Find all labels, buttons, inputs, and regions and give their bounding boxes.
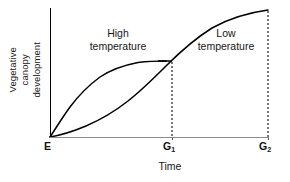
annotation-high-temperature-line1: High (72, 27, 164, 40)
x-tick-label-e: E (44, 140, 51, 152)
x-tick-label-g1: G1 (163, 140, 175, 152)
x-tick-label-g2: G2 (259, 140, 271, 152)
annotation-low-temperature-line1: Low (180, 27, 272, 40)
y-axis-label: Vegetative canopy development (7, 42, 43, 98)
annotation-low-temperature: Low temperature (180, 27, 272, 52)
y-axis-label-line1: Vegetative (7, 42, 19, 98)
x-tick-label-g2-base: G (259, 140, 267, 152)
annotation-high-temperature-line2: temperature (72, 40, 164, 53)
annotation-high-temperature: High temperature (72, 27, 164, 52)
x-tick-label-g1-subscript: 1 (171, 146, 175, 153)
x-tick-label-g1-base: G (163, 140, 171, 152)
curve-high-temperature (50, 61, 166, 137)
annotation-low-temperature-line2: temperature (180, 40, 272, 53)
y-axis-label-container: Vegetative canopy development (0, 0, 50, 140)
x-tick-label-e-text: E (44, 140, 51, 152)
x-axis-label: Time (120, 160, 220, 172)
x-tick-label-g2-subscript: 2 (267, 146, 271, 153)
y-axis-label-line2: canopy development (19, 42, 43, 98)
chart-figure: Vegetative canopy development High tempe… (0, 0, 290, 182)
